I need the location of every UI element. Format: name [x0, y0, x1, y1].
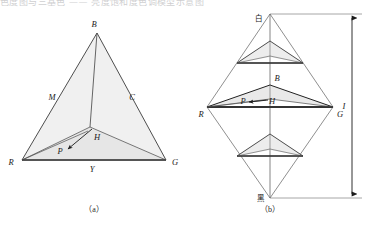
figure-b-group: 白 黑 R G B H P I （b）	[197, 13, 362, 214]
caption-a: （a）	[84, 205, 104, 214]
figure-canvas: 色度图与三基色 —— 亮度饱和度色调模型示意图 B R G M	[0, 0, 371, 228]
label-a-P: P	[56, 146, 62, 156]
label-b-B: B	[274, 73, 279, 83]
label-a-Y: Y	[90, 164, 96, 174]
label-a-C: C	[129, 92, 135, 102]
figure-a-group: B R G M C Y H P （a）	[7, 19, 178, 214]
label-b-R: R	[197, 109, 204, 119]
label-a-G: G	[172, 157, 178, 167]
label-b-P: P	[239, 96, 245, 106]
diagram-svg: B R G M C Y H P （a）	[0, 0, 371, 228]
label-a-R: R	[7, 157, 14, 167]
label-b-white: 白	[255, 13, 262, 23]
label-a-M: M	[47, 92, 56, 102]
caption-b: （b）	[260, 205, 280, 214]
label-a-B: B	[91, 19, 96, 29]
label-a-H: H	[93, 132, 101, 142]
label-b-I: I	[342, 101, 347, 111]
label-b-H: H	[268, 96, 276, 106]
label-b-black: 黑	[257, 194, 265, 203]
